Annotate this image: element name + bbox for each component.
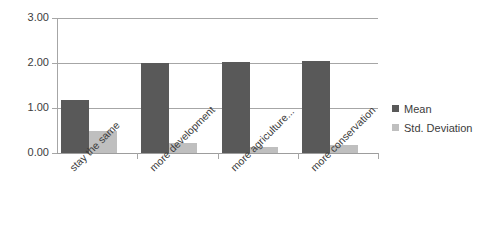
legend-swatch-icon (392, 105, 399, 112)
y-axis-tick-label: 1.00 (5, 102, 49, 113)
x-axis-tick-mark (298, 153, 299, 159)
legend-item: Mean (392, 99, 484, 118)
legend-swatch-icon (392, 124, 399, 131)
y-axis-tick-label: 2.00 (5, 57, 49, 68)
x-axis-tick-mark (218, 153, 219, 159)
x-axis-tick-mark (137, 153, 138, 159)
bar-mean (141, 63, 169, 153)
x-axis-tick-mark (378, 153, 379, 159)
bar-mean (302, 61, 330, 153)
legend-item: Std. Deviation (392, 118, 484, 137)
y-axis-labels: 0.001.002.003.00 (0, 0, 49, 242)
bar-chart: 0.001.002.003.00 stay the samemore devel… (0, 0, 485, 242)
y-axis-tick-label: 3.00 (5, 12, 49, 23)
legend-label: Std. Deviation (404, 122, 472, 134)
y-axis-tick-label: 0.00 (5, 147, 49, 158)
bar-mean (222, 62, 250, 153)
legend-label: Mean (404, 103, 432, 115)
bar-mean (61, 100, 89, 153)
chart-legend: MeanStd. Deviation (392, 99, 484, 137)
